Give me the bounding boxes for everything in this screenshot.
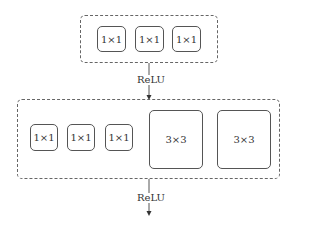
kernel-label: 1×1	[108, 132, 129, 143]
kernel-label: 1×1	[33, 132, 54, 143]
kernel-label: 1×1	[70, 132, 91, 143]
bottom-kernel-1x1-b: 1×1	[67, 124, 95, 151]
kernel-label: 3×3	[233, 134, 254, 145]
top-kernel-1x1-b: 1×1	[135, 26, 164, 52]
kernel-label: 3×3	[165, 134, 186, 145]
arrowhead-2-icon	[147, 211, 152, 216]
relu-label-2: ReLU	[137, 193, 165, 203]
relu-label-1: ReLU	[137, 75, 165, 85]
top-kernel-1x1-c: 1×1	[172, 26, 201, 52]
bottom-kernel-1x1-c: 1×1	[105, 124, 133, 151]
kernel-label: 1×1	[176, 34, 197, 45]
top-kernel-1x1-a: 1×1	[97, 26, 126, 52]
bottom-kernel-1x1-a: 1×1	[30, 124, 58, 151]
bottom-kernel-3x3-b: 3×3	[217, 110, 271, 169]
kernel-label: 1×1	[139, 34, 160, 45]
bottom-kernel-3x3-a: 3×3	[149, 110, 203, 169]
kernel-label: 1×1	[101, 34, 122, 45]
